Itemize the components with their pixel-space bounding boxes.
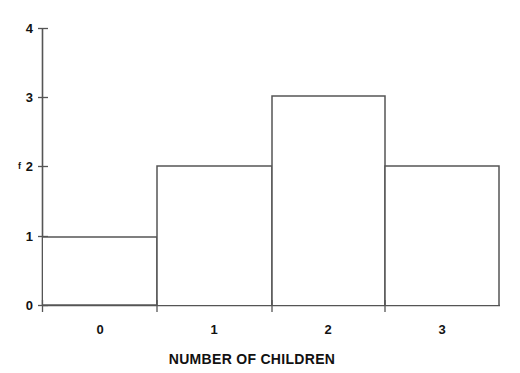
x-tick-label-0: 0 bbox=[96, 322, 103, 337]
y-tick-label-2: 2 bbox=[26, 159, 33, 174]
x-tick-label-3: 3 bbox=[438, 322, 445, 337]
histogram-bar-2 bbox=[272, 96, 385, 305]
y-tick-label-4: 4 bbox=[26, 21, 34, 36]
histogram-bar-1 bbox=[157, 166, 272, 305]
y-tick-label-1: 1 bbox=[26, 229, 33, 244]
histogram-bar-3 bbox=[385, 166, 499, 305]
histogram-figure: 4 3 2 1 0 f 0 1 2 3 NUMBER OF CHILDREN bbox=[0, 0, 520, 373]
histogram-plot: 4 3 2 1 0 f 0 1 2 3 NUMBER OF CHILDREN bbox=[0, 0, 520, 373]
x-tick-label-1: 1 bbox=[210, 322, 217, 337]
x-tick-label-2: 2 bbox=[324, 322, 331, 337]
y-axis-label-f: f bbox=[18, 161, 22, 171]
x-axis-title: NUMBER OF CHILDREN bbox=[169, 351, 335, 367]
y-tick-label-3: 3 bbox=[26, 90, 33, 105]
y-tick-label-0: 0 bbox=[26, 298, 33, 313]
histogram-bar-0 bbox=[43, 237, 157, 305]
